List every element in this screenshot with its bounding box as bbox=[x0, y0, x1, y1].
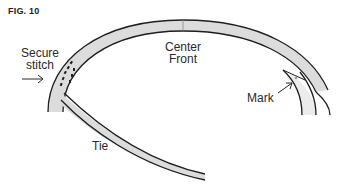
secure-stitch-label: Secure stitch bbox=[18, 47, 62, 71]
band-end-curve-3 bbox=[316, 92, 330, 115]
neckband-outer-edge bbox=[48, 20, 328, 112]
mark-arrow bbox=[278, 83, 292, 93]
figure-label: FIG. 10 bbox=[8, 6, 39, 16]
tie-band bbox=[56, 92, 205, 180]
fig-10-illustration bbox=[0, 0, 347, 191]
neckband bbox=[48, 20, 328, 112]
diagram-stage: FIG. 10 Secure stitch Center Front Mark … bbox=[0, 0, 347, 191]
tie-band-upper-edge bbox=[64, 93, 205, 174]
secure-stitch-line2: stitch bbox=[18, 59, 62, 71]
tie-label: Tie bbox=[92, 140, 108, 152]
center-front-label: Center Front bbox=[160, 41, 206, 65]
mark-dot bbox=[295, 77, 298, 80]
center-front-line2: Front bbox=[160, 53, 206, 65]
mark-label: Mark bbox=[247, 92, 274, 104]
secure-stitch-arrow bbox=[22, 75, 43, 83]
